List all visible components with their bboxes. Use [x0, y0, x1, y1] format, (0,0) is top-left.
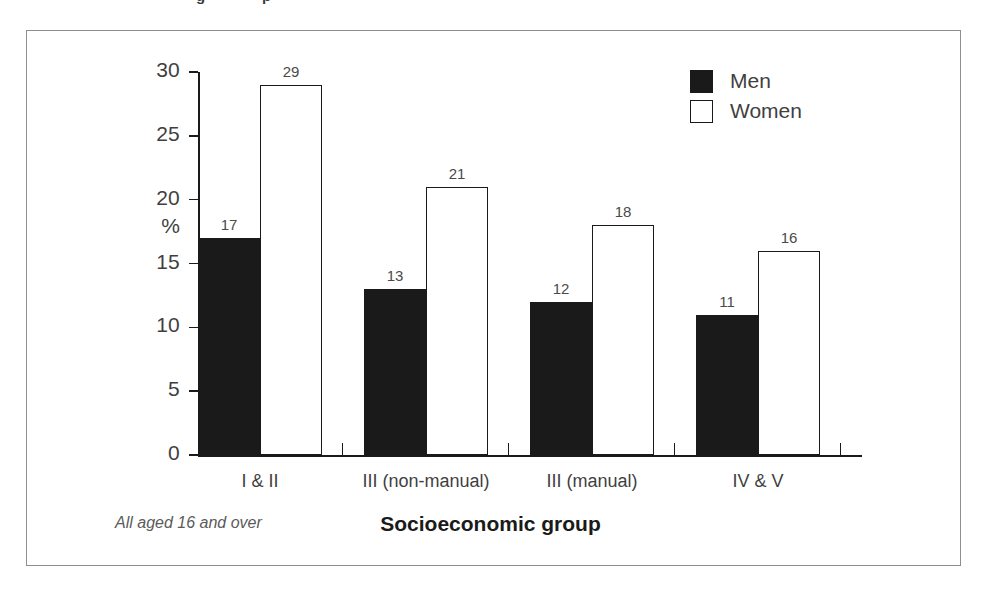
legend-label-women: Women: [730, 99, 802, 123]
legend-item-women: Women: [690, 96, 802, 126]
legend-swatch-women: [690, 100, 713, 123]
heading-fragment-1: p: [262, 0, 271, 4]
legend-label-men: Men: [730, 69, 771, 93]
legend-swatch-men: [690, 70, 713, 93]
legend-item-men: Men: [690, 66, 802, 96]
figure-frame: [26, 30, 961, 566]
x-axis-title: Socioeconomic group: [0, 512, 981, 536]
heading-fragment-0: g: [196, 0, 205, 4]
chart-legend: Men Women: [690, 66, 802, 126]
cropped-heading-fragments: gp: [0, 0, 981, 12]
